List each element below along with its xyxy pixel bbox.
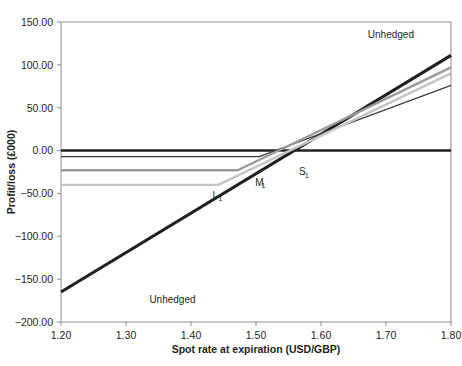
annotation-subscript: 1 (261, 182, 265, 189)
x-tick-label: 1.60 (311, 329, 332, 341)
annotation-text: Unhedged (368, 29, 414, 40)
annotation-text: L (212, 190, 218, 201)
y-tick-label: 150.00 (21, 16, 53, 28)
x-tick-label: 1.50 (246, 329, 267, 341)
y-tick-label: −200.00 (15, 316, 53, 328)
y-tick-label: −50.00 (21, 187, 54, 199)
x-tick-label: 1.40 (181, 329, 202, 341)
y-tick-label: −100.00 (15, 230, 53, 242)
y-tick-label: 0.00 (33, 144, 54, 156)
profit-loss-chart: 150.00100.0050.000.00−50.00−100.00−150.0… (0, 0, 462, 366)
x-tick-label: 1.70 (376, 329, 397, 341)
chart-root: 150.00100.0050.000.00−50.00−100.00−150.0… (0, 0, 462, 366)
x-axis-title: Spot rate at expiration (USD/GBP) (172, 343, 341, 355)
x-tick-label: 1.20 (51, 329, 72, 341)
y-tick-label: 50.00 (27, 102, 53, 114)
annotation-subscript: 1 (305, 172, 309, 179)
chart-background (0, 0, 462, 366)
annotation-text: Unhedged (149, 294, 195, 305)
annotation-unhedged-lower: Unhedged (149, 294, 195, 305)
x-tick-label: 1.80 (441, 329, 462, 341)
annotation-unhedged-upper: Unhedged (368, 29, 414, 40)
x-tick-label: 1.30 (116, 329, 137, 341)
y-tick-label: −150.00 (15, 273, 53, 285)
y-axis-title: Profit/loss (£000) (5, 130, 17, 215)
annotation-subscript: 1 (219, 195, 223, 202)
y-tick-label: 100.00 (21, 59, 53, 71)
